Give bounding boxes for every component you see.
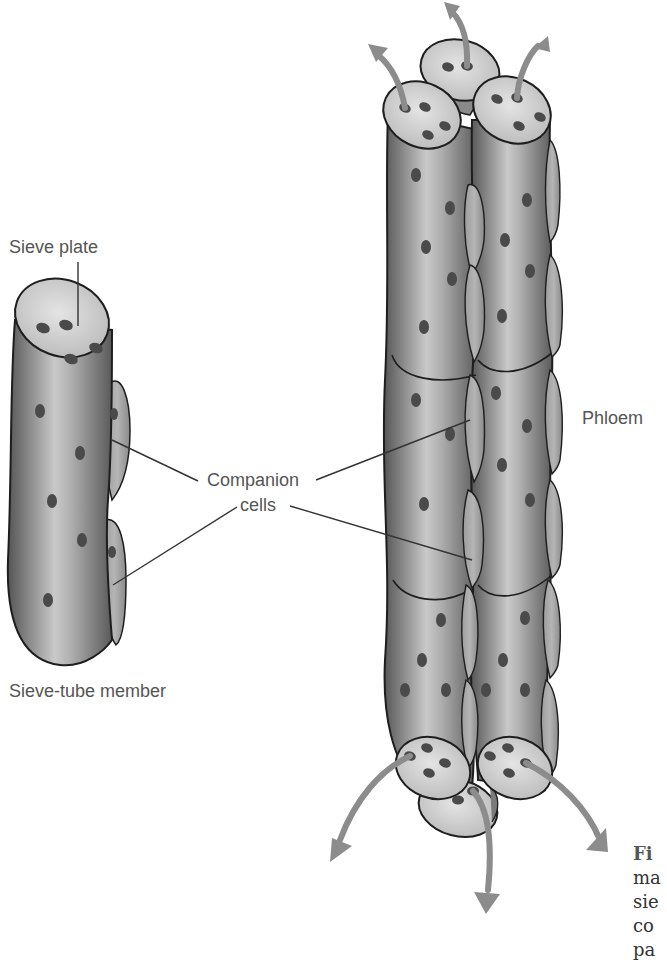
caption-line-2: ma: [633, 866, 661, 890]
phloem-label: Phloem: [582, 407, 643, 429]
caption-line-3: sie: [633, 890, 661, 914]
companion-cell: [546, 140, 560, 242]
caption-line-1: Fi: [633, 842, 661, 866]
companion-cells-label-line1: Companion: [207, 469, 299, 491]
sieve-tube-member-label: Sieve-tube member: [9, 680, 166, 702]
caption-line-4: co: [633, 914, 661, 938]
companion-cells-label-line2: cells: [240, 494, 276, 516]
phloem-column-illustration: [372, 31, 562, 846]
sieve-tube-member-illustration: [4, 266, 130, 665]
caption-line-5: pa: [633, 938, 661, 962]
sieve-plate-label: Sieve plate: [9, 236, 98, 258]
figure-caption-fragment: Fi ma sie co pa: [633, 842, 661, 962]
